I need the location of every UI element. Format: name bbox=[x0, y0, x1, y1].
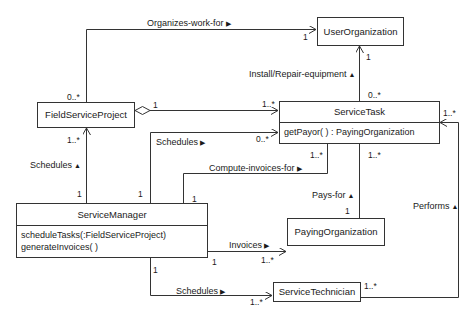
mult-organizes-from: 0..* bbox=[67, 93, 80, 102]
label-schedules-tech: Schedules▶ bbox=[176, 286, 225, 297]
class-service-technician[interactable]: ServiceTechnician bbox=[273, 282, 361, 302]
label-invoices: Invoices▶ bbox=[229, 240, 269, 251]
mult-schedules-project-to: 1..* bbox=[67, 136, 80, 145]
mult-compute-invoices-to: 1..* bbox=[310, 151, 323, 160]
mult-schedules-task-to: 0..* bbox=[256, 135, 269, 144]
direction-up-icon: ▲ bbox=[452, 203, 459, 210]
mult-aggregation-to: 1..* bbox=[262, 100, 275, 109]
direction-up-icon: ▲ bbox=[348, 192, 355, 199]
label-text: Compute-invoices-for bbox=[209, 163, 295, 173]
mult-invoices-to: 1..* bbox=[261, 256, 274, 265]
label-text: Performs bbox=[413, 201, 450, 211]
label-text: Schedules bbox=[156, 137, 198, 147]
class-field-service-project[interactable]: FieldServiceProject bbox=[37, 102, 135, 128]
operations-compartment: getPayor( ) : PayingOrganization bbox=[280, 122, 439, 140]
direction-right-icon: ▶ bbox=[226, 20, 231, 27]
mult-schedules-project-from: 1 bbox=[77, 190, 82, 199]
label-text: Schedules bbox=[176, 286, 218, 296]
operation: generateInvoices( ) bbox=[21, 241, 203, 253]
mult-performs-tech: 1..* bbox=[364, 282, 377, 291]
operations-compartment: scheduleTasks(:FieldServiceProject) gene… bbox=[17, 225, 207, 255]
mult-pays-for-from: 1 bbox=[345, 207, 350, 216]
label-performs: Performs▲ bbox=[413, 201, 458, 212]
direction-right-icon: ▶ bbox=[264, 242, 269, 249]
mult-organizes-to: 1 bbox=[303, 33, 308, 42]
operation: scheduleTasks(:FieldServiceProject) bbox=[21, 229, 203, 241]
class-name: ServiceManager bbox=[17, 204, 207, 225]
direction-right-icon: ▶ bbox=[220, 288, 225, 295]
label-text: Organizes-work-for bbox=[147, 18, 224, 28]
class-paying-organization[interactable]: PayingOrganization bbox=[287, 218, 385, 246]
class-name: ServiceTechnician bbox=[274, 283, 360, 301]
label-text: Invoices bbox=[229, 240, 262, 250]
direction-right-icon: ▶ bbox=[200, 139, 205, 146]
mult-aggregation-from: 1 bbox=[153, 101, 158, 110]
label-organizes-work-for: Organizes-work-for▶ bbox=[147, 18, 231, 29]
class-name: PayingOrganization bbox=[288, 219, 384, 245]
mult-install-to: 1 bbox=[366, 53, 371, 62]
class-service-task[interactable]: ServiceTask getPayor( ) : PayingOrganiza… bbox=[279, 101, 440, 144]
label-text: Install/Repair-equipment bbox=[249, 69, 347, 79]
class-user-organization[interactable]: UserOrganization bbox=[317, 17, 404, 46]
mult-schedules-tech-from: 1 bbox=[153, 266, 158, 275]
label-pays-for: Pays-for▲ bbox=[312, 190, 354, 201]
direction-up-icon: ▲ bbox=[349, 71, 356, 78]
mult-schedules-task-from: 1 bbox=[138, 190, 143, 199]
class-name: FieldServiceProject bbox=[38, 103, 134, 127]
organizes-line bbox=[87, 30, 317, 103]
label-install-repair-equipment: Install/Repair-equipment▲ bbox=[249, 69, 356, 80]
mult-schedules-tech-to: 1..* bbox=[250, 298, 263, 307]
label-text: Schedules bbox=[30, 160, 72, 170]
direction-right-icon: ▶ bbox=[297, 165, 302, 172]
mult-performs-task: 1..* bbox=[443, 109, 456, 118]
label-schedules-task: Schedules▶ bbox=[156, 137, 205, 148]
class-name: UserOrganization bbox=[318, 18, 403, 45]
label-schedules-project: Schedules▲ bbox=[30, 160, 81, 171]
label-compute-invoices-for: Compute-invoices-for▶ bbox=[209, 163, 302, 174]
aggregation-diamond bbox=[135, 107, 150, 115]
mult-compute-invoices-from: 1 bbox=[192, 195, 197, 204]
label-text: Pays-for bbox=[312, 190, 346, 200]
mult-pays-for-to: 1..* bbox=[368, 151, 381, 160]
mult-invoices-from: 1 bbox=[212, 258, 217, 267]
mult-install-from: 0..* bbox=[368, 91, 381, 100]
direction-up-icon: ▲ bbox=[74, 162, 81, 169]
operation: getPayor( ) : PayingOrganization bbox=[284, 126, 435, 138]
class-service-manager[interactable]: ServiceManager scheduleTasks(:FieldServi… bbox=[16, 203, 208, 258]
class-name: ServiceTask bbox=[280, 102, 439, 122]
